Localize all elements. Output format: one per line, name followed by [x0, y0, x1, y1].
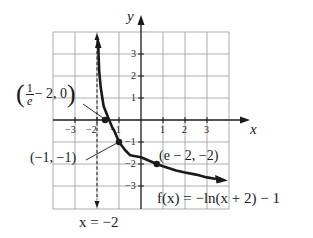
y-tick-label: −3 [125, 181, 136, 191]
y-tick-label: 1 [131, 93, 136, 103]
y-tick-label: 2 [131, 71, 136, 81]
open-paren: ( [16, 79, 25, 108]
asymptote-down-arrow-icon [95, 201, 100, 208]
x-axis-arrow-icon [240, 117, 250, 124]
y-tick-label: 3 [131, 49, 136, 59]
asymptote-up-arrow-icon [95, 33, 100, 40]
x-tick-label: 1 [160, 125, 165, 135]
point-label-e-minus-2: (e − 2, −2) [159, 149, 218, 163]
function-label: f(x) = −ln(x + 2) − 1 [157, 191, 280, 206]
asymptote-label: x = −2 [79, 215, 118, 230]
close-paren: ) [67, 79, 76, 108]
point-label-x-intercept: (1e− 2, 0) [16, 81, 76, 107]
x-tick-label: 3 [204, 125, 209, 135]
x-tick-label: −2 [86, 125, 97, 135]
curve-end-arrow-icon [215, 175, 228, 184]
point-label-minus1-minus1: (−1, −1) [30, 151, 76, 165]
x-tick-label: 2 [182, 125, 187, 135]
x-tick-label: −1 [110, 125, 121, 135]
y-axis-arrow-icon [138, 15, 145, 25]
x-axis-label: x [250, 122, 257, 137]
y-tick-label: −2 [125, 159, 136, 169]
fraction-one-over-e: 1e [26, 82, 34, 107]
x-tick-label: −3 [65, 125, 76, 135]
y-axis-label: y [127, 9, 134, 24]
point-minus1-minus1 [116, 139, 122, 145]
y-tick-label: −1 [125, 137, 136, 147]
